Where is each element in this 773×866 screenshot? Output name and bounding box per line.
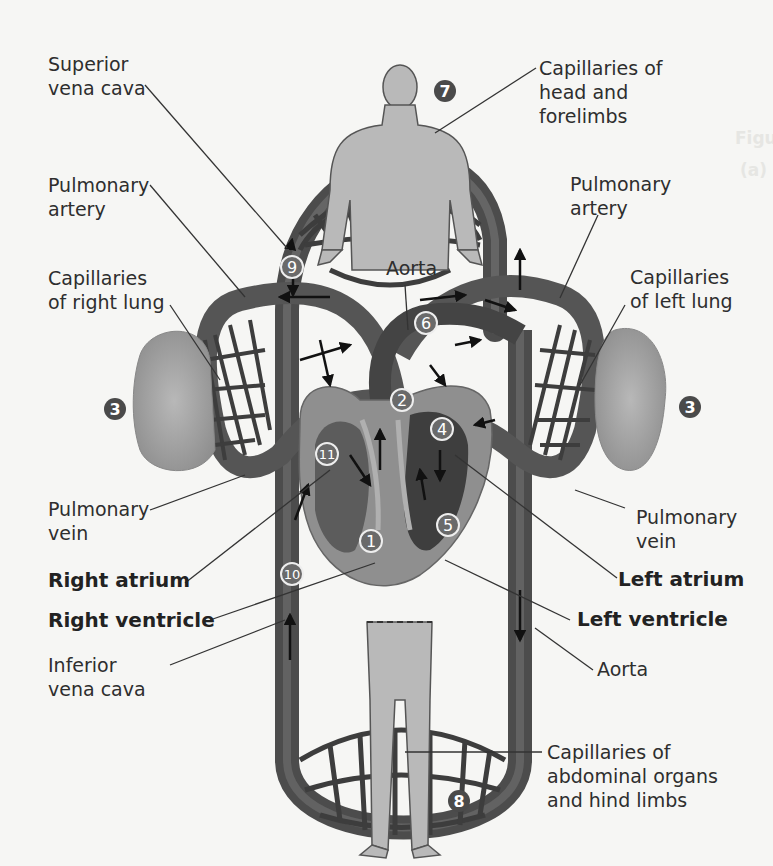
label-line: vena cava	[48, 677, 146, 701]
label-pulmonary-vein-right: Pulmonary vein	[636, 505, 737, 553]
label-capillaries-head-forelimbs: Capillaries of head and forelimbs	[539, 56, 662, 128]
marker-2: 2	[391, 389, 413, 411]
label-left-atrium: Left atrium	[618, 567, 744, 591]
label-line: of left lung	[630, 289, 733, 313]
label-inferior-vena-cava: Inferior vena cava	[48, 653, 146, 701]
label-line: Capillaries of	[539, 56, 662, 80]
label-line: of right lung	[48, 290, 164, 314]
label-line: Capillaries of	[547, 740, 718, 764]
label-capillaries-abdominal: Capillaries of abdominal organs and hind…	[547, 740, 718, 812]
marker-3-left-lung: 3	[679, 396, 701, 418]
svg-text:3: 3	[109, 400, 120, 419]
label-line: artery	[48, 197, 149, 221]
svg-text:4: 4	[437, 420, 447, 439]
svg-text:10: 10	[284, 567, 301, 582]
label-pulmonary-artery-left: Pulmonary artery	[48, 173, 149, 221]
right-lung	[133, 331, 215, 470]
label-capillaries-right-lung: Capillaries of right lung	[48, 266, 164, 314]
label-right-ventricle: Right ventricle	[48, 608, 215, 632]
marker-11: 11	[316, 443, 338, 465]
label-pulmonary-vein-left: Pulmonary vein	[48, 497, 149, 545]
label-pulmonary-artery-right: Pulmonary artery	[570, 172, 671, 220]
upper-body-silhouette	[318, 65, 482, 270]
svg-text:6: 6	[421, 314, 431, 333]
svg-text:5: 5	[443, 516, 453, 535]
label-line: Pulmonary	[570, 172, 671, 196]
label-right-atrium: Right atrium	[48, 568, 190, 592]
label-line: and hind limbs	[547, 788, 718, 812]
label-line: abdominal organs	[547, 764, 718, 788]
label-line: artery	[570, 196, 671, 220]
label-line: head and	[539, 80, 662, 104]
svg-text:8: 8	[453, 792, 464, 811]
label-line: vein	[48, 521, 149, 545]
marker-1: 1	[360, 530, 382, 552]
svg-text:11: 11	[319, 447, 336, 462]
label-line: vena cava	[48, 76, 146, 100]
label-line: vein	[636, 529, 737, 553]
label-capillaries-left-lung: Capillaries of left lung	[630, 265, 733, 313]
label-left-ventricle: Left ventricle	[577, 607, 728, 631]
label-line: Pulmonary	[48, 173, 149, 197]
label-aorta-top: Aorta	[386, 256, 437, 280]
svg-text:9: 9	[287, 258, 297, 277]
heart	[299, 386, 492, 586]
label-line: Pulmonary	[48, 497, 149, 521]
label-line: Capillaries	[48, 266, 164, 290]
marker-7: 7	[434, 80, 456, 102]
marker-4: 4	[431, 418, 453, 440]
circulation-diagram: 1 2 3 3 4 5 6 7 8 9 10 11	[0, 0, 773, 866]
marker-10: 10	[281, 563, 303, 585]
left-lung	[595, 328, 666, 470]
label-line: forelimbs	[539, 104, 662, 128]
marker-6: 6	[415, 312, 437, 334]
label-superior-vena-cava: Superior vena cava	[48, 52, 146, 100]
svg-text:1: 1	[366, 532, 376, 551]
label-aorta-bottom: Aorta	[597, 657, 648, 681]
label-line: Capillaries	[630, 265, 733, 289]
label-line: Inferior	[48, 653, 146, 677]
svg-text:2: 2	[397, 391, 407, 410]
svg-text:7: 7	[439, 82, 450, 101]
svg-text:3: 3	[684, 398, 695, 417]
marker-5: 5	[437, 514, 459, 536]
marker-8: 8	[448, 790, 470, 812]
label-line: Pulmonary	[636, 505, 737, 529]
marker-9: 9	[281, 256, 303, 278]
marker-3-right-lung: 3	[104, 398, 126, 420]
label-line: Superior	[48, 52, 146, 76]
